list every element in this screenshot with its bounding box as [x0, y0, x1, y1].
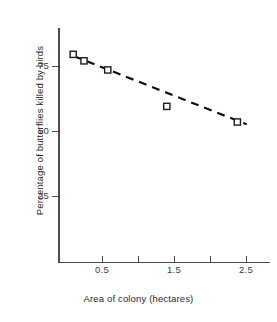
data-point-marker: [70, 51, 76, 57]
scatter-chart-figure: 75 50 25 0.5 1.5 2.5 Percentage of butte…: [0, 0, 277, 322]
plot-data-layer: [0, 0, 277, 322]
trend-line-dashed: [74, 56, 247, 124]
data-point-marker: [164, 103, 170, 109]
data-point-marker: [105, 67, 111, 73]
data-point-marker: [234, 119, 240, 125]
data-point-marker: [81, 58, 87, 64]
